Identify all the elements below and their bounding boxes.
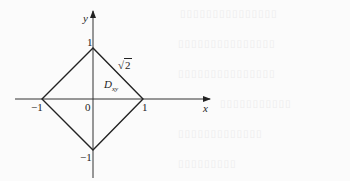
x-tick-positive: 1: [142, 102, 148, 113]
origin-label: 0: [85, 102, 91, 113]
diagram-canvas: ▯▯▯▯▯▯▯▯▯▯▯▯▯▯▯ ▯▯▯▯▯▯▯▯▯▯▯▯▯▯▯ ▯▯▯▯▯▯▯▯…: [0, 0, 350, 181]
region-label-subscript: xy: [112, 85, 118, 93]
x-axis-label: x: [203, 103, 208, 114]
edge-length-label: √2: [118, 60, 132, 71]
region-label-main: D: [104, 78, 112, 90]
y-axis-label: y: [83, 13, 88, 24]
radicand: 2: [124, 58, 132, 71]
y-tick-positive: 1: [87, 37, 93, 48]
y-tick-negative: −1: [80, 152, 92, 163]
diagram-svg: [0, 0, 350, 181]
x-tick-negative: −1: [31, 102, 43, 113]
region-label: Dxy: [104, 79, 118, 93]
